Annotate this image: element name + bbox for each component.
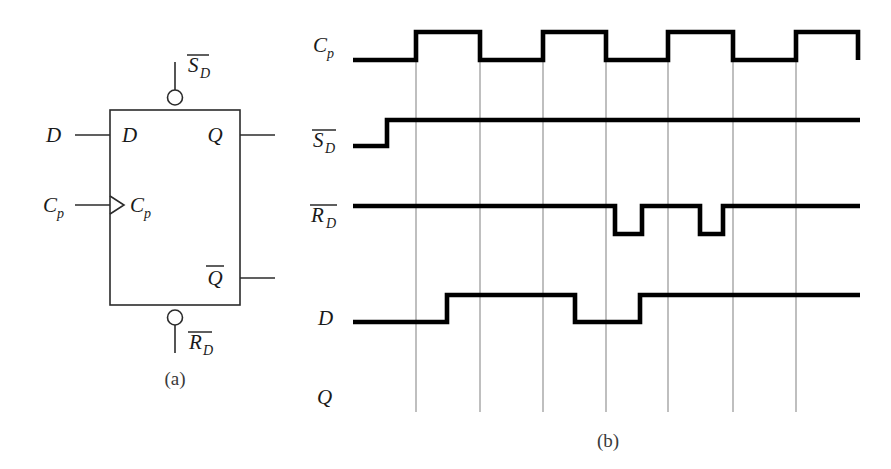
row-label-sd: S D — [312, 128, 336, 156]
row-label-d-base: D — [317, 306, 333, 330]
figure-canvas: S D R D D D C p C p Q Q — [0, 0, 891, 469]
row-label-rd-sub: D — [325, 216, 336, 231]
d-external-label: D — [45, 123, 61, 147]
clock-edge-triangle-icon — [110, 196, 124, 214]
row-label-cp: C p — [313, 33, 334, 61]
reset-label-base: R — [188, 330, 202, 354]
clock-external-label-sub: p — [56, 206, 64, 221]
row-label-cp-sub: p — [326, 46, 334, 61]
caption-part-a: (a) — [164, 368, 185, 390]
row-label-rd: R D — [310, 203, 337, 231]
reset-bubble-icon — [168, 310, 183, 325]
qbar-internal-label: Q — [207, 266, 222, 290]
clock-external-label-base: C — [43, 193, 58, 217]
row-label-sd-base: S — [313, 128, 324, 152]
set-label-sub: D — [199, 66, 210, 81]
caption-part-b: (b) — [597, 430, 619, 452]
set-bubble-icon — [168, 90, 183, 105]
reset-label-sub: D — [202, 343, 213, 358]
row-label-q: Q — [317, 385, 332, 409]
clock-internal-label-sub: p — [143, 206, 151, 221]
row-label-rd-base: R — [310, 203, 324, 227]
set-label-base: S — [188, 53, 199, 77]
flip-flop-symbol-group: S D R D D D C p C p Q Q — [43, 53, 275, 390]
row-label-sd-sub: D — [324, 141, 335, 156]
d-internal-label: D — [121, 123, 137, 147]
row-label-cp-base: C — [313, 33, 328, 57]
row-label-q-base: Q — [317, 385, 332, 409]
gridlines — [416, 62, 796, 412]
clock-internal-label-base: C — [130, 193, 145, 217]
timing-diagram-group: C p S D R D D Q — [310, 32, 860, 452]
q-internal-label: Q — [207, 123, 222, 147]
waveform-cp — [353, 32, 858, 60]
figure-root: S D R D D D C p C p Q Q — [0, 0, 891, 469]
row-label-d: D — [317, 306, 333, 330]
